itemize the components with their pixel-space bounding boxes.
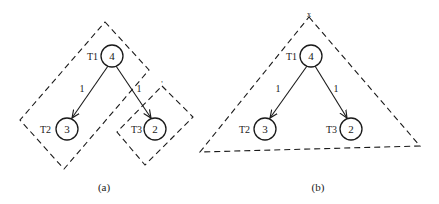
panel-b: x 1 1 4 T1 3 T2 2 T3 (b) [200, 10, 420, 195]
node-label: T1 [87, 51, 98, 62]
node-value: 3 [262, 123, 268, 135]
node-t3: 2 T3 [131, 118, 166, 140]
node-value: 2 [348, 123, 354, 135]
node-t1: 4 T1 [286, 45, 322, 67]
panel-caption-a: (a) [98, 181, 111, 194]
node-t2: 3 T2 [40, 118, 78, 140]
node-value: 4 [308, 50, 314, 62]
node-value: 2 [152, 123, 158, 135]
node-label: T3 [131, 124, 142, 135]
node-label: T1 [286, 51, 297, 62]
node-t3: 2 T3 [326, 118, 362, 140]
cluster-apex-mark: x [307, 10, 311, 19]
node-label: T3 [326, 124, 337, 135]
node-t2: 3 T2 [239, 118, 276, 140]
cluster-region-all [200, 17, 420, 152]
edge-weight-t1-t3: 1 [334, 83, 339, 94]
node-value: 4 [109, 50, 115, 62]
panel-a: ' 1 1 4 T1 3 T2 2 T3 (a) [20, 22, 193, 194]
edge-weight-t1-t2: 1 [80, 83, 85, 94]
edge-weight-t1-t3: 1 [137, 83, 142, 94]
edge-t1-t3 [315, 66, 347, 118]
panel-caption-b: (b) [312, 181, 325, 194]
node-label: T2 [40, 124, 51, 135]
task-graph-figure: ' 1 1 4 T1 3 T2 2 T3 (a) x [0, 0, 439, 204]
node-t1: 4 T1 [87, 45, 123, 67]
node-value: 3 [64, 123, 70, 135]
edge-t1-t2 [72, 66, 108, 118]
node-label: T2 [239, 124, 250, 135]
edge-weight-t1-t2: 1 [276, 83, 281, 94]
